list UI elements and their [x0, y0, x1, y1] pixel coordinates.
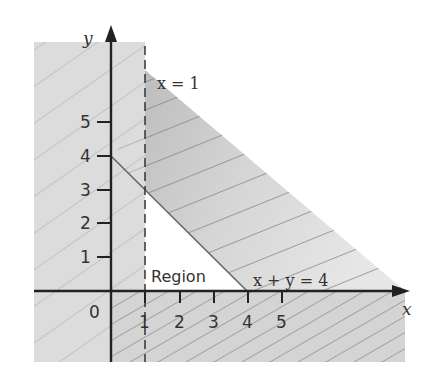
y-tick-label-3: 3 — [80, 180, 91, 200]
origin-label: 0 — [89, 302, 100, 322]
region-label: Region — [151, 267, 206, 286]
y-axis-label: y — [82, 28, 93, 48]
x-tick-label-5: 5 — [276, 312, 287, 332]
y-tick-label-5: 5 — [80, 112, 91, 132]
y-tick-label-4: 4 — [80, 146, 91, 166]
x-tick-label-4: 4 — [242, 312, 253, 332]
inequality-region-diagram: 1 2 3 4 5 1 2 3 4 5 0 x y x = 1 x + y = … — [0, 0, 442, 376]
y-tick-label-1: 1 — [80, 247, 91, 267]
x-tick-label-1: 1 — [139, 312, 150, 332]
y-tick-label-2: 2 — [80, 213, 91, 233]
x-tick-label-2: 2 — [174, 312, 185, 332]
x-tick-label-3: 3 — [208, 312, 219, 332]
excluded-region-bottom — [111, 291, 405, 362]
label-x-eq-1: x = 1 — [157, 74, 200, 93]
label-x-plus-y-eq-4: x + y = 4 — [253, 271, 328, 290]
x-axis-label: x — [402, 299, 412, 319]
